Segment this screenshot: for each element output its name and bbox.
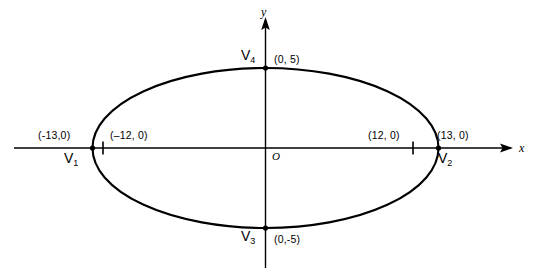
y-axis-label: y: [261, 6, 266, 18]
bottom-vertex-subscript: 3: [250, 236, 255, 246]
top-vertex-name-label: V4: [241, 48, 255, 62]
vertex-dot-v4: [263, 65, 268, 70]
right-vertex-subscript: 2: [447, 158, 452, 168]
ellipse-diagram: y x O (-13,0) V1 (‒12, 0) (12, 0) (13, 0…: [0, 0, 534, 276]
vertex-dot-v3: [263, 225, 268, 230]
x-axis-label: x: [519, 142, 524, 154]
left-vertex-coordinate-label: (-13,0): [38, 130, 70, 141]
right-vertex-name-label: V2: [438, 151, 452, 165]
bottom-vertex-coordinate-label: (0,-5): [274, 234, 300, 245]
top-vertex-name-text: V: [241, 47, 250, 63]
origin-label: O: [272, 151, 280, 162]
left-vertex-name-text: V: [64, 150, 73, 166]
vertex-dot-v1: [90, 145, 95, 150]
left-vertex-name-label: V1: [64, 151, 78, 165]
top-vertex-subscript: 4: [250, 55, 255, 65]
right-vertex-name-text: V: [438, 150, 447, 166]
top-vertex-coordinate-label: (0, 5): [274, 54, 300, 65]
right-vertex-coordinate-label: (13, 0): [437, 130, 469, 141]
left-vertex-subscript: 1: [73, 158, 78, 168]
bottom-vertex-name-label: V3: [241, 229, 255, 243]
right-tick-coordinate-label: (12, 0): [368, 130, 400, 141]
bottom-vertex-name-text: V: [241, 228, 250, 244]
left-tick-coordinate-label: (‒12, 0): [110, 130, 148, 141]
